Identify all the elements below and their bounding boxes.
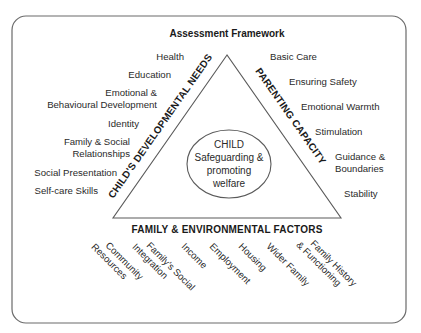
need-education: Education bbox=[128, 69, 171, 80]
side-label-family-environmental-factors: FAMILY & ENVIRONMENTAL FACTORS bbox=[131, 224, 322, 235]
center-line-1: CHILD bbox=[214, 139, 244, 150]
need-social-presentation: Social Presentation bbox=[34, 167, 117, 178]
need-identity: Identity bbox=[108, 118, 139, 129]
need-emotional-behavioural-line-1: Emotional & bbox=[105, 87, 157, 98]
parenting-basic-care: Basic Care bbox=[270, 51, 317, 62]
center-line-2: Safeguarding & bbox=[195, 152, 264, 163]
diagram-title: Assessment Framework bbox=[169, 28, 284, 39]
parenting-ensuring-safety: Ensuring Safety bbox=[289, 76, 357, 87]
parenting-stimulation: Stimulation bbox=[315, 126, 362, 137]
parenting-stability: Stability bbox=[344, 188, 378, 199]
parenting-emotional-warmth: Emotional Warmth bbox=[301, 101, 380, 112]
center-line-4: welfare bbox=[212, 178, 246, 189]
center-line-3: promoting bbox=[207, 165, 251, 176]
need-family-social-line-1: Family & Social bbox=[64, 136, 130, 147]
need-health: Health bbox=[156, 51, 184, 62]
parenting-guidance-line-1: Guidance & bbox=[335, 151, 386, 162]
need-emotional-behavioural-line-2: Behavioural Development bbox=[47, 99, 157, 110]
assessment-framework-diagram: Assessment Framework CHILD Safeguarding … bbox=[0, 0, 421, 333]
need-family-social-line-2: Relationships bbox=[72, 148, 130, 159]
need-self-care-skills: Self-care Skills bbox=[35, 185, 99, 196]
parenting-guidance-line-2: Boundaries bbox=[335, 163, 384, 174]
